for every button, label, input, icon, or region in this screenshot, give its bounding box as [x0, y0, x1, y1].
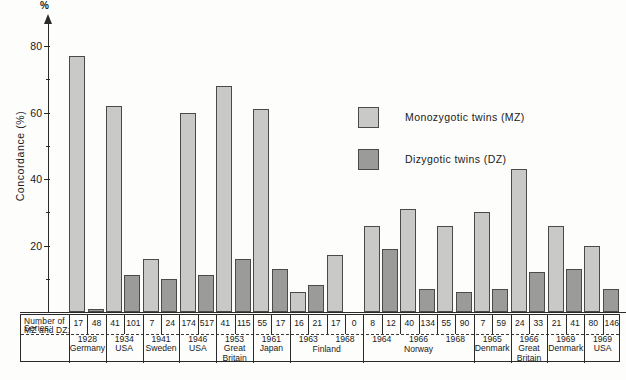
bar-dz-10: [456, 292, 472, 312]
table-count-mz-1: 41: [106, 318, 124, 328]
bar-dz-11: [492, 289, 508, 312]
legend-swatch-dz-icon: [358, 149, 379, 170]
table-row-header-series: Series:: [24, 324, 51, 333]
table-count-mz-9: 40: [400, 318, 418, 328]
bar-dz-3: [198, 275, 214, 312]
table-series-14: 1969 USA: [584, 335, 621, 354]
bar-dz-8: [382, 249, 398, 312]
table-count-mz-0: 17: [69, 318, 87, 328]
legend-label-dz: Dizygotic twins (DZ): [405, 153, 506, 165]
bar-mz-5: [253, 109, 269, 312]
table-count-mz-13: 21: [547, 318, 565, 328]
table-series-12: 1966 Great Britain: [511, 335, 548, 363]
table-count-dz-13: 41: [566, 318, 584, 328]
bar-dz-9: [419, 289, 435, 312]
table-count-dz-7: 0: [345, 318, 363, 328]
bar-dz-4: [235, 259, 251, 312]
plot-area: % Concordance (%) 80604020 Monozygotic t…: [0, 0, 626, 315]
bar-mz-14: [584, 246, 600, 313]
bar-mz-13: [548, 226, 564, 312]
table-series-3: 1946 USA: [179, 335, 216, 354]
chart-root: % Concordance (%) 80604020 Monozygotic t…: [0, 0, 626, 380]
bar-mz-1: [106, 106, 122, 312]
table-series-5: 1961 Japan: [253, 335, 290, 354]
table-country-span-6: Finland: [290, 345, 364, 354]
bar-mz-6: [290, 292, 306, 312]
table-count-mz-14: 80: [584, 318, 602, 328]
table-year-9: 1966: [400, 335, 437, 344]
table-count-mz-2: 7: [143, 318, 161, 328]
table-count-dz-6: 21: [308, 318, 326, 328]
table-count-mz-3: 174: [179, 318, 197, 328]
bar-series-container: [0, 0, 626, 315]
table-series-1: 1934 USA: [106, 335, 143, 354]
table-series-0: 1928 Germany: [69, 335, 106, 354]
bar-mz-12: [511, 169, 527, 312]
table-count-dz-4: 115: [235, 318, 253, 328]
table-count-dz-12: 33: [529, 318, 547, 328]
table-year-7: 1968: [327, 335, 364, 344]
table-count-dz-8: 12: [382, 318, 400, 328]
bar-mz-10: [437, 226, 453, 312]
table-count-dz-3: 517: [198, 318, 216, 328]
bar-dz-12: [529, 272, 545, 312]
bar-dz-6: [308, 285, 324, 312]
bar-dz-1: [124, 275, 140, 312]
table-series-13: 1969 Denmark: [547, 335, 584, 354]
bar-mz-2: [143, 259, 159, 312]
bar-dz-14: [603, 289, 619, 312]
table-series-4: 1953 Great Britain: [216, 335, 253, 363]
table-count-mz-5: 55: [253, 318, 271, 328]
table-year-8: 1964: [363, 335, 400, 344]
table-count-dz-1: 101: [124, 318, 142, 328]
table-count-mz-6: 16: [290, 318, 308, 328]
bar-dz-2: [161, 279, 177, 312]
table-series-11: 1965 Denmark: [474, 335, 511, 354]
bar-mz-8: [364, 226, 380, 312]
data-table: Number of MZ and DZ: Series: 17481928 Ge…: [20, 314, 620, 362]
bar-dz-0: [88, 309, 104, 312]
bar-mz-11: [474, 212, 490, 312]
table-count-dz-11: 59: [492, 318, 510, 328]
table-count-mz-12: 24: [511, 318, 529, 328]
table-count-dz-9: 134: [419, 318, 437, 328]
table-count-mz-7: 17: [327, 318, 345, 328]
table-count-dz-0: 48: [87, 318, 105, 328]
table-count-mz-4: 41: [216, 318, 234, 328]
table-count-dz-10: 90: [455, 318, 473, 328]
table-year-10: 1968: [437, 335, 474, 344]
bar-mz-4: [216, 86, 232, 312]
table-country-span-8: Norway: [363, 345, 473, 354]
legend-item-mz: Monozygotic twins (MZ): [358, 104, 525, 130]
table-count-mz-10: 55: [437, 318, 455, 328]
table-count-mz-8: 8: [363, 318, 381, 328]
legend-item-dz: Dizygotic twins (DZ): [358, 146, 525, 172]
bar-mz-7: [327, 255, 343, 312]
bar-mz-3: [180, 113, 196, 313]
table-year-6: 1963: [290, 335, 327, 344]
bar-dz-5: [272, 269, 288, 312]
legend-label-mz: Monozygotic twins (MZ): [405, 111, 525, 123]
table-count-dz-14: 146: [603, 318, 621, 328]
table-count-dz-2: 24: [161, 318, 179, 328]
bar-mz-0: [69, 56, 85, 312]
bar-mz-9: [400, 209, 416, 312]
table-count-dz-5: 17: [271, 318, 289, 328]
legend: Monozygotic twins (MZ) Dizygotic twins (…: [358, 104, 525, 188]
bar-dz-13: [566, 269, 582, 312]
table-series-2: 1941 Sweden: [143, 335, 180, 354]
table-count-mz-11: 7: [474, 318, 492, 328]
legend-swatch-mz-icon: [358, 107, 379, 128]
